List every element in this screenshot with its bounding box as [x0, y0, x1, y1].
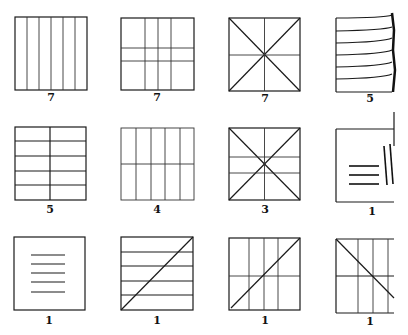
count-label-r3c1: 1 [34, 314, 64, 327]
count-label-r2c1: 5 [35, 203, 65, 216]
square-r2c3 [229, 128, 300, 200]
square-r1c1 [15, 17, 87, 90]
square-r1c2 [121, 18, 194, 90]
square-r3c4 [336, 239, 394, 313]
square-r3c2 [121, 237, 193, 310]
square-r2c1 [15, 127, 86, 200]
count-label-r2c2: 4 [142, 203, 172, 216]
count-label-r3c4: 1 [355, 315, 385, 328]
square-r2c4 [336, 112, 394, 202]
square-r3c1 [14, 237, 85, 310]
count-label-r1c3: 7 [250, 92, 280, 105]
count-label-r1c4: 5 [355, 92, 385, 105]
count-label-r3c2: 1 [142, 314, 172, 327]
count-label-r2c4: 1 [357, 205, 387, 218]
square-r2c2 [121, 128, 194, 200]
square-r1c4 [336, 13, 395, 92]
count-label-r2c3: 3 [250, 203, 280, 216]
count-label-r1c2: 7 [142, 91, 172, 104]
figure-canvas [0, 0, 408, 335]
count-label-r1c1: 7 [36, 91, 66, 104]
square-r3c3 [229, 238, 300, 310]
square-r1c3 [229, 18, 300, 91]
count-label-r3c3: 1 [250, 314, 280, 327]
